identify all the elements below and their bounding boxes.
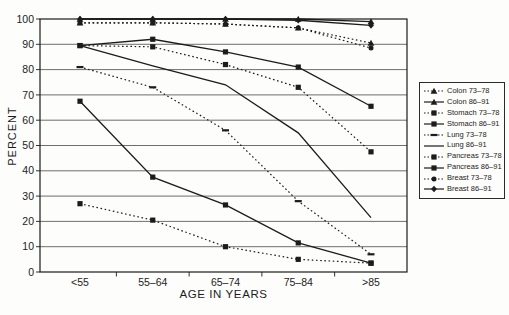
svg-text:90: 90 [22, 38, 34, 50]
legend-item: Stomach 73–78 [423, 108, 503, 119]
legend-item: Lung 73–78 [423, 130, 503, 141]
y-axis-labels: 1009080706050403020100 [16, 13, 40, 278]
legend-sample-dotted-square [423, 152, 445, 162]
svg-text:10: 10 [22, 240, 34, 252]
legend-sample-solid-triangle [423, 97, 445, 107]
x-axis-title: AGE IN YEARS [40, 288, 407, 300]
svg-text:40: 40 [22, 164, 34, 176]
legend-sample-dotted-square [423, 108, 445, 118]
legend-sample-dotted-circle [423, 174, 445, 184]
svg-text:30: 30 [22, 190, 34, 202]
series-pancreas-73-78 [77, 201, 373, 266]
svg-text:60: 60 [22, 114, 34, 126]
legend-sample-solid-square [423, 163, 445, 173]
legend-label: Pancreas 73–78 [447, 151, 502, 162]
legend-sample-dotted-dash [423, 130, 445, 140]
svg-text:75–84: 75–84 [284, 276, 313, 288]
legend-label: Lung 73–78 [447, 130, 487, 141]
legend-label: Pancreas 86–91 [447, 162, 502, 173]
legend-item: Pancreas 73–78 [423, 151, 503, 162]
svg-text:0: 0 [28, 266, 34, 278]
legend-item: Pancreas 86–91 [423, 162, 503, 173]
legend-sample-solid-none [423, 141, 445, 151]
legend-label: Breast 86–91 [447, 184, 492, 195]
legend-sample-dotted-triangle [423, 86, 445, 96]
series-breast-73-78 [78, 20, 374, 50]
legend-item: Lung 86–91 [423, 140, 503, 151]
legend-item: Breast 86–91 [423, 184, 503, 195]
figure-root: 1009080706050403020100<5555–6465–7475–84… [0, 0, 509, 315]
series-stomach-86-91 [77, 37, 373, 109]
legend-label: Lung 86–91 [447, 140, 487, 151]
chart-legend: Colon 73–78Colon 86–91Stomach 73–78Stoma… [419, 82, 505, 199]
grid [40, 44, 407, 246]
legend-label: Stomach 73–78 [447, 108, 500, 119]
svg-text:>85: >85 [362, 276, 380, 288]
svg-text:<55: <55 [71, 276, 89, 288]
svg-text:100: 100 [16, 13, 34, 25]
svg-text:55–64: 55–64 [138, 276, 167, 288]
svg-text:80: 80 [22, 63, 34, 75]
legend-label: Breast 73–78 [447, 173, 492, 184]
legend-item: Colon 86–91 [423, 97, 503, 108]
legend-item: Stomach 86–91 [423, 119, 503, 130]
svg-text:20: 20 [22, 215, 34, 227]
legend-sample-solid-square [423, 119, 445, 129]
legend-sample-solid-diamond [423, 184, 445, 194]
svg-text:70: 70 [22, 89, 34, 101]
series-stomach-73-78 [77, 43, 373, 154]
y-axis-title: PERCENT [6, 106, 18, 166]
x-axis-labels: <5555–6465–7475–84>85 [71, 272, 380, 288]
svg-text:50: 50 [22, 139, 34, 151]
series-lung-86-91 [80, 46, 371, 218]
legend-label: Colon 86–91 [447, 97, 490, 108]
legend-item: Breast 73–78 [423, 173, 503, 184]
series-lung-73-78 [77, 66, 375, 255]
svg-text:65–74: 65–74 [211, 276, 240, 288]
series-pancreas-86-91 [77, 99, 373, 266]
legend-item: Colon 73–78 [423, 86, 503, 97]
legend-label: Stomach 86–91 [447, 119, 500, 130]
legend-label: Colon 73–78 [447, 86, 490, 97]
